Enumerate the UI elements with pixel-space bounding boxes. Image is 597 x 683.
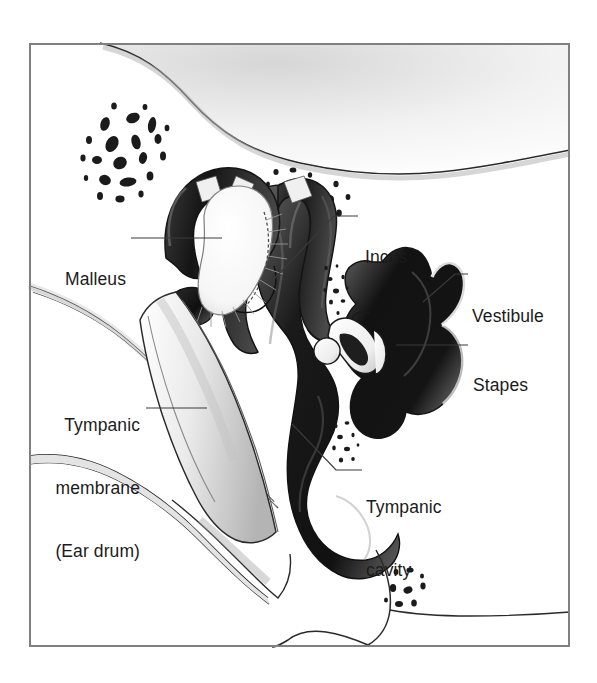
- label-malleus: Malleus: [0, 227, 126, 332]
- label-incus-line-0: Incus: [365, 247, 407, 268]
- stipple-lower-cavity: [332, 421, 359, 462]
- label-tympanic-membrane-line-2: (Ear drum): [0, 541, 140, 562]
- ear-anatomy-figure: Malleus Incus Vestibule Stapes Tympanic …: [0, 0, 597, 683]
- label-tympanic-cavity: Tympanic cavity: [366, 455, 442, 623]
- label-tympanic-membrane-line-0: Tympanic: [0, 415, 140, 436]
- label-incus: Incus: [365, 205, 407, 310]
- label-tympanic-membrane-line-1: membrane: [0, 478, 140, 499]
- label-malleus-line-0: Malleus: [0, 269, 126, 290]
- label-stapes-line-0: Stapes: [473, 375, 528, 396]
- temporal-bone-upper: [29, 43, 570, 178]
- label-tympanic-cavity-line-1: cavity: [366, 560, 442, 581]
- label-vestibule-line-0: Vestibule: [472, 306, 544, 327]
- label-tympanic-cavity-line-0: Tympanic: [366, 497, 442, 518]
- label-stapes: Stapes: [473, 333, 528, 438]
- label-tympanic-membrane: Tympanic membrane (Ear drum): [0, 373, 140, 604]
- mastoid-stipple-left: [80, 102, 169, 202]
